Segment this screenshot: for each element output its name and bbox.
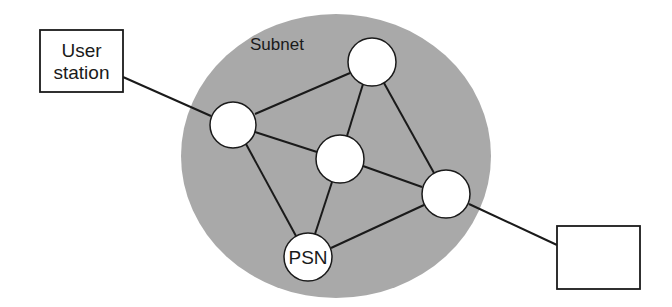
node-top — [348, 38, 396, 86]
network-diagram: PSN Userstation Subnet — [0, 0, 672, 307]
subnet-label: Subnet — [250, 35, 304, 54]
node-circle — [316, 135, 364, 183]
node-label: PSN — [288, 247, 327, 268]
node-circle — [422, 170, 470, 218]
station-box-remote-station — [557, 226, 640, 289]
station-label-line: User — [61, 40, 102, 61]
station-rect — [557, 226, 640, 289]
node-left — [210, 102, 256, 148]
node-circle — [210, 102, 256, 148]
node-center — [316, 135, 364, 183]
node-psn: PSN — [284, 233, 332, 281]
station-label-line: station — [54, 62, 110, 83]
node-circle — [348, 38, 396, 86]
node-right — [422, 170, 470, 218]
station-box-user-station: Userstation — [40, 30, 123, 92]
